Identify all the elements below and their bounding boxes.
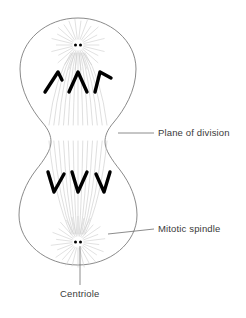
label-centriole: Centriole <box>60 288 99 299</box>
centriole-dot <box>74 44 77 47</box>
label-mitotic-spindle: Mitotic spindle <box>158 223 220 234</box>
centriole-dot <box>79 241 82 244</box>
cell-division-diagram: Plane of division Mitotic spindle Centri… <box>0 0 246 318</box>
centriole-dot <box>79 44 82 47</box>
centriole-dot <box>74 241 77 244</box>
label-plane-of-division: Plane of division <box>158 127 230 138</box>
